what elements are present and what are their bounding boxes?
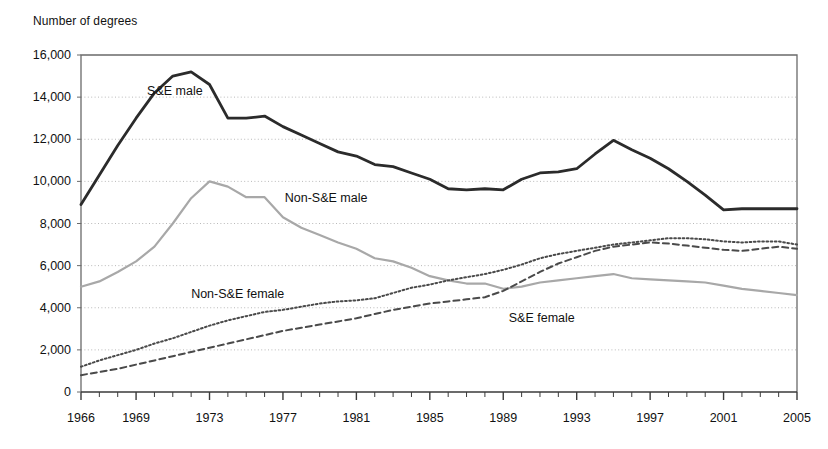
x-axis-ticks (81, 392, 797, 400)
y-tick-label: 6,000 (0, 259, 71, 273)
series-label-non-s-e-female: Non-S&E female (191, 287, 284, 301)
series-label-s-e-female: S&E female (509, 311, 575, 325)
x-tick-label: 1977 (269, 411, 297, 425)
x-tick-label: 1989 (489, 411, 517, 425)
series-label-non-s-e-male: Non-S&E male (285, 191, 368, 205)
y-tick-label: 10,000 (0, 174, 71, 188)
y-tick-label: 2,000 (0, 343, 71, 357)
series-label-s-e-male: S&E male (147, 84, 203, 98)
x-tick-label: 1969 (122, 411, 150, 425)
y-tick-label: 12,000 (0, 132, 71, 146)
series-line-3 (81, 242, 797, 375)
degrees-line-chart: Number of degrees 02,0004,0006,0008,0001… (0, 0, 828, 449)
x-tick-label: 2005 (783, 411, 811, 425)
gridlines-group (81, 97, 797, 350)
y-tick-label: 4,000 (0, 301, 71, 315)
x-tick-label: 1997 (636, 411, 664, 425)
x-tick-label: 1993 (563, 411, 591, 425)
x-tick-label: 1981 (342, 411, 370, 425)
y-tick-label: 16,000 (0, 48, 71, 62)
chart-canvas (0, 0, 828, 449)
y-tick-label: 14,000 (0, 90, 71, 104)
x-tick-label: 1973 (196, 411, 224, 425)
x-tick-label: 1966 (67, 411, 95, 425)
x-tick-label: 1985 (416, 411, 444, 425)
y-tick-label: 8,000 (0, 217, 71, 231)
x-tick-label: 2001 (710, 411, 738, 425)
y-tick-label: 0 (0, 385, 71, 399)
series-line-1 (81, 181, 797, 295)
